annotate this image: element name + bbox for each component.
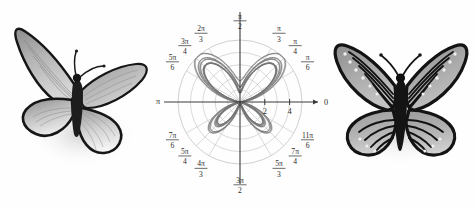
polar-theta-label: 5π4 [178,147,191,166]
right-butterfly-antenna-club-a [379,53,383,57]
polar-r-tick-label: 4 [287,106,292,116]
polar-theta-label-denominator: 2 [238,186,242,195]
polar-theta-label-denominator: 3 [199,170,203,179]
polar-theta-label-denominator: 4 [183,157,187,166]
polar-theta-label-denominator: 3 [277,35,281,44]
polar-theta-label-numerator: π [238,12,242,21]
polar-theta-label-numerator: π [277,24,281,33]
polar-theta-label-text: π [156,97,161,106]
polar-theta-label-numerator: π [293,37,297,46]
right-butterfly-antenna-club-b [418,53,422,57]
polar-theta-label: π6 [301,53,314,72]
polar-theta-label: 2π3 [195,24,208,43]
left-butterfly-antenna-club-b [102,64,105,67]
polar-theta-label-numerator: 5π [275,159,283,168]
polar-curve-path [195,54,286,134]
left-butterfly-antennae [75,52,104,77]
polar-theta-label: π2 [234,12,247,31]
polar-theta-label-denominator: 6 [306,63,310,72]
polar-theta-label-numerator: 3π [181,37,189,46]
polar-theta-label-denominator: 4 [293,47,297,56]
polar-theta-label: 5π6 [166,53,179,72]
left-butterfly-head [73,74,81,82]
polar-theta-label-denominator: 2 [238,22,242,31]
polar-theta-label-numerator: 11π [302,131,313,140]
figure-canvas: Grayscale photograph of a pale butterfly… [0,0,475,208]
polar-theta-label: 7π4 [289,147,302,166]
polar-theta-label-numerator: 5π [169,53,177,62]
right-butterfly-antennae [382,56,419,75]
polar-theta-label: π3 [273,24,286,43]
polar-theta-label-denominator: 6 [171,63,175,72]
butterfly-photo-left: Grayscale photograph of a pale butterfly… [0,14,155,194]
left-butterfly-antenna-club-a [75,49,78,52]
butterfly-photo-right: Grayscale photograph of a monarch-style … [325,14,475,194]
polar-theta-label-denominator: 3 [199,35,203,44]
polar-theta-label-numerator: 7π [291,147,299,156]
polar-theta-label-denominator: 4 [183,47,187,56]
polar-theta-label-numerator: 3π [236,176,244,185]
polar-theta-label: π4 [289,37,302,56]
polar-theta-label-denominator: 4 [293,157,297,166]
polar-r-tick-label: 2 [263,106,267,116]
polar-theta-label-denominator: 3 [277,170,281,179]
polar-theta-label-numerator: 7π [169,131,177,140]
polar-theta-label: 7π6 [166,131,179,150]
polar-theta-label-denominator: 6 [171,141,175,150]
polar-theta-label-numerator: π [306,53,310,62]
polar-theta-label: 11π6 [301,131,314,150]
polar-theta-label: 3π2 [234,176,247,195]
polar-theta-label: 4π3 [195,159,208,178]
polar-theta-label: 3π4 [178,37,191,56]
polar-theta-label-numerator: 4π [197,159,205,168]
polar-theta-label: π [156,97,161,106]
polar-axis-arrow [313,99,318,104]
polar-plot: 240π6π4π3π22π33π45π6π7π65π44π33π25π37π41… [150,0,330,208]
polar-theta-label-numerator: 2π [197,24,205,33]
polar-theta-label-denominator: 6 [306,141,310,150]
polar-theta-label: 5π3 [273,159,286,178]
polar-theta-label-numerator: 5π [181,147,189,156]
